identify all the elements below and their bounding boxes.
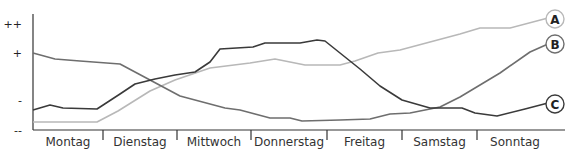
x-tick-label: Sonntag: [490, 135, 540, 149]
y-tick-label: --: [14, 124, 22, 137]
x-tick-label: Mittwoch: [187, 135, 241, 149]
x-axis-tick-labels: MontagDienstagMittwochDonnerstagFreitagS…: [46, 135, 540, 149]
x-tick-label: Montag: [46, 135, 91, 149]
series-label-b: B: [550, 38, 559, 52]
series-label-c: C: [551, 98, 560, 112]
y-tick-label: ++: [4, 18, 22, 31]
x-tick-label: Donnerstag: [254, 135, 324, 149]
series-lines: [33, 18, 548, 122]
chart-svg: +++--- MontagDienstagMittwochDonnerstagF…: [0, 0, 580, 156]
series-label-a: A: [550, 13, 560, 27]
x-tick-label: Samstag: [413, 135, 466, 149]
series-end-labels: ABC: [546, 10, 564, 113]
x-tick-label: Freitag: [344, 135, 385, 149]
line-chart: +++--- MontagDienstagMittwochDonnerstagF…: [0, 0, 580, 156]
y-tick-label: +: [13, 47, 22, 60]
y-tick-label: -: [18, 94, 22, 107]
series-line-c: [33, 40, 548, 116]
series-line-a: [33, 18, 548, 122]
series-line-b: [33, 44, 548, 121]
y-axis-tick-labels: +++---: [4, 18, 22, 137]
x-tick-label: Dienstag: [113, 135, 167, 149]
